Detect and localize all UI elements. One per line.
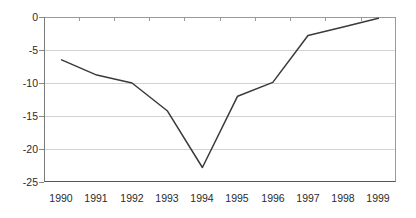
category-tick-1990 (79, 17, 80, 21)
x-axis-label-1994: 1994 (190, 193, 213, 204)
x-axis-label-1992: 1992 (120, 193, 143, 204)
x-axis-label-1997: 1997 (296, 193, 319, 204)
y-axis-tick--25 (39, 182, 44, 183)
y-axis-label--5: -5 (0, 45, 38, 56)
category-tick-1996 (290, 17, 291, 21)
category-tick-1992 (149, 17, 150, 21)
x-axis-label-1991: 1991 (84, 193, 107, 204)
x-axis-label-1996: 1996 (261, 193, 284, 204)
category-tick-1994 (220, 17, 221, 21)
x-axis-label-1990: 1990 (49, 193, 72, 204)
x-axis-label-1998: 1998 (331, 193, 354, 204)
gridline--10 (45, 83, 395, 84)
gridline--20 (45, 149, 395, 150)
category-tick-1993 (184, 17, 185, 21)
x-axis-label-1999: 1999 (366, 193, 389, 204)
category-tick-1995 (255, 17, 256, 21)
y-axis-label--15: -15 (0, 111, 38, 122)
x-axis-label-1995: 1995 (225, 193, 248, 204)
plot-area (44, 17, 396, 182)
y-axis-label--10: -10 (0, 78, 38, 89)
category-tick-1998 (361, 17, 362, 21)
x-axis-label-1993: 1993 (155, 193, 178, 204)
y-axis-label--20: -20 (0, 144, 38, 155)
y-axis-label--25: -25 (0, 177, 38, 188)
category-tick-1997 (325, 17, 326, 21)
line-chart-figure: 0 -5 -10 -15 -20 -25 1990 1991 1992 1993… (0, 0, 416, 218)
y-axis-label-0: 0 (0, 12, 38, 23)
gridline--15 (45, 116, 395, 117)
gridline--5 (45, 50, 395, 51)
category-tick-1991 (114, 17, 115, 21)
